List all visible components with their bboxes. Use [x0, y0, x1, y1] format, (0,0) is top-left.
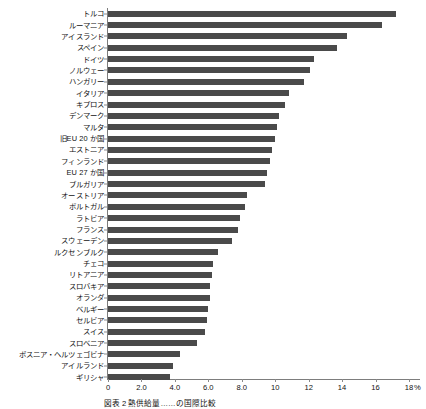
x-tick-mark [409, 379, 410, 382]
bar-row: トルコ [0, 8, 426, 19]
bar [108, 261, 213, 267]
bar-row: ブルガリア [0, 178, 426, 189]
bar-row: ポルトガル [0, 201, 426, 212]
category-label: ポルトガル [0, 202, 104, 211]
x-tick-mark [275, 379, 276, 382]
bar-row: キプロス [0, 99, 426, 110]
bar-row: スイス [0, 326, 426, 337]
bar-track [108, 340, 197, 346]
y-axis-tick [104, 13, 107, 14]
bar-track [108, 215, 240, 221]
bar-row: オランダ [0, 292, 426, 303]
bar-track [108, 124, 277, 130]
y-axis-tick [104, 365, 107, 366]
y-axis-tick [104, 218, 107, 219]
bar-row: マルタ [0, 122, 426, 133]
bar-row: オーストリア [0, 190, 426, 201]
y-axis-tick [104, 263, 107, 264]
bar-track [108, 33, 347, 39]
category-label: オーストリア [0, 191, 104, 200]
bar [108, 170, 267, 176]
bar-track [108, 238, 232, 244]
x-tick-label: 6.0 [203, 383, 214, 393]
x-tick-label: 0 [106, 383, 110, 393]
category-label: フランス [0, 225, 104, 234]
bar-row: セルビア [0, 315, 426, 326]
bar-row: ルクセンブルク [0, 247, 426, 258]
bar [108, 295, 210, 301]
bar-track [108, 11, 396, 17]
category-label: マルタ [0, 123, 104, 132]
y-axis-tick [104, 309, 107, 310]
y-axis-tick [104, 127, 107, 128]
category-label: アイスランド [0, 32, 104, 41]
bar-row: リトアニア [0, 269, 426, 280]
bar [108, 329, 205, 335]
bar-row: スロバキア [0, 281, 426, 292]
y-axis-tick [104, 343, 107, 344]
bar-track [108, 249, 218, 255]
bar [108, 363, 173, 369]
y-axis-tick [104, 70, 107, 71]
bar-track [108, 227, 238, 233]
category-label: オランダ [0, 293, 104, 302]
bar-track [108, 283, 210, 289]
bar-row: ラトビア [0, 212, 426, 223]
category-label: イタリア [0, 89, 104, 98]
category-label: デンマーク [0, 111, 104, 120]
y-axis-tick [104, 47, 107, 48]
y-axis-tick [104, 149, 107, 150]
y-axis-tick [104, 184, 107, 185]
category-label: スイス [0, 327, 104, 336]
x-tick-label: 10 [271, 383, 279, 393]
y-axis-tick [104, 115, 107, 116]
y-axis-tick [104, 320, 107, 321]
bar-track [108, 56, 314, 62]
bar-track [108, 136, 275, 142]
y-axis-tick [104, 252, 107, 253]
bar [108, 45, 337, 51]
category-label: 旧EU 20 か国 [0, 134, 104, 143]
y-axis-tick [104, 297, 107, 298]
bar [108, 249, 218, 255]
x-tick-label: 16 [371, 383, 379, 393]
category-label: ブルガリア [0, 180, 104, 189]
bar-row: イタリア [0, 88, 426, 99]
bar [108, 192, 247, 198]
bar [108, 351, 180, 357]
bar-row: ハンガリー [0, 76, 426, 87]
bar-track [108, 113, 279, 119]
bar [108, 136, 275, 142]
y-axis-tick [104, 59, 107, 60]
category-label: ハンガリー [0, 77, 104, 86]
y-axis-tick [104, 93, 107, 94]
bar [108, 102, 285, 108]
x-tick-mark [242, 379, 243, 382]
x-tick-label: 18 [405, 383, 413, 393]
bar [108, 33, 347, 39]
bar [108, 204, 245, 210]
category-label: フィンランド [0, 157, 104, 166]
bar [108, 272, 212, 278]
bar [108, 90, 289, 96]
bar-track [108, 90, 289, 96]
bar-row: スウェーデン [0, 235, 426, 246]
bar-row: アイルランド [0, 360, 426, 371]
bar-track [108, 79, 304, 85]
bar-row: フランス [0, 224, 426, 235]
bar [108, 11, 396, 17]
category-label: ルーマニア [0, 21, 104, 30]
bar-row: スペイン [0, 42, 426, 53]
bar [108, 181, 265, 187]
bar [108, 158, 270, 164]
bar [108, 306, 208, 312]
y-axis-tick [104, 240, 107, 241]
x-tick-label: 14 [338, 383, 346, 393]
bar-row: 旧EU 20 か国 [0, 133, 426, 144]
bar-track [108, 158, 270, 164]
bar [108, 215, 240, 221]
x-tick-mark [141, 379, 142, 382]
category-label: セルビア [0, 316, 104, 325]
bar-track [108, 181, 265, 187]
bar-track [108, 329, 205, 335]
